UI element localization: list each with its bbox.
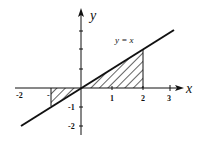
x-tick-label-2: 2 — [141, 94, 145, 103]
x-tick-label-neg2: -2 — [16, 91, 23, 100]
plot-canvas: y x y = x -2 - 1 2 3 -1 -2 — [0, 0, 205, 142]
x-tick-label-neg1: - — [47, 91, 50, 100]
x-axis-label: x — [185, 81, 193, 96]
chart-figure: y x y = x -2 - 1 2 3 -1 -2 — [0, 0, 205, 142]
line-y-equals-x — [21, 30, 174, 126]
x-tick-label-1: 1 — [110, 94, 114, 103]
y-tick-label-neg2: -2 — [68, 122, 75, 131]
y-tick-label-neg1: -1 — [68, 103, 75, 112]
x-tick-label-3: 3 — [167, 94, 171, 103]
curve-label: y = x — [114, 35, 134, 45]
y-axis-label: y — [88, 8, 97, 23]
